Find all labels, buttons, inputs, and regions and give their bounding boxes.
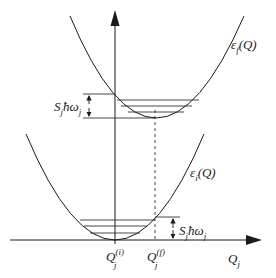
omega-subscript: j [204,231,207,241]
qf-tick-label: Q(f) j [147,249,165,263]
omega-subscript: j [79,107,82,117]
upper-gap-label: Sjħωj [54,100,81,117]
lower-gap-marker [155,217,180,238]
lower-vibrational-levels [80,220,155,233]
x-axis-label: Qj [228,252,240,269]
q-symbol: Q [228,251,237,266]
upper-vibrational-levels [117,100,199,112]
label-argument: (Q) [239,37,257,52]
upper-curve-label: εf(Q) [231,38,257,55]
q-subscript: j [114,261,117,270]
y-axis-arrowhead-icon [111,10,120,26]
y-axis [111,10,120,244]
label-argument: (Q) [198,165,216,180]
lower-gap-label: Sjħωj [179,224,206,241]
upper-parabola [70,16,244,118]
x-axis-arrowhead-icon [246,235,262,245]
x-axis [10,235,262,245]
hbar-omega: ħω [63,99,79,114]
q-superscript: (f) [156,247,165,257]
qi-tick-label: Q(i) j [106,249,124,263]
q-superscript: (i) [115,247,124,257]
hbar-omega: ħω [188,223,204,238]
q-subscript: j [155,261,158,270]
lower-curve-label: εi(Q) [190,166,216,183]
configuration-coordinate-diagram: εf(Q) εi(Q) Sjħωj Sjħωj Q(i) j Q(f) j Qj [0,0,276,278]
q-subscript: j [237,259,240,269]
